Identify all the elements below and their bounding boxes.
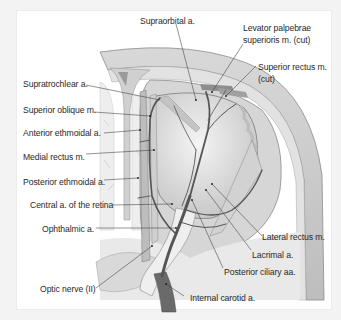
label-central-artery-retina: Central a. of the retina: [30, 199, 113, 210]
label-anterior-ethmoidal-artery: Anterior ethmoidal a.: [23, 127, 101, 138]
label-supratrochlear-artery: Supratrochlear a.: [23, 78, 88, 89]
label-levator-palpebrae-line2: superioris m. (cut): [243, 34, 310, 45]
label-ophthalmic-artery: Ophthalmic a.: [42, 223, 94, 234]
label-optic-nerve: Optic nerve (II): [40, 283, 96, 294]
label-lacrimal-artery: Lacrimal a.: [252, 249, 293, 260]
label-superior-rectus-line2: (cut): [258, 73, 275, 84]
label-posterior-ciliary-arteries: Posterior ciliary aa.: [224, 266, 296, 277]
label-medial-rectus-muscle: Medial rectus m.: [23, 151, 85, 162]
label-superior-oblique-muscle: Superior oblique m.: [23, 104, 96, 115]
label-supraorbital-artery: Supraorbital a.: [140, 15, 195, 26]
label-lateral-rectus-muscle: Lateral rectus m.: [262, 231, 325, 242]
label-levator-palpebrae-line1: Levator palpebrae: [243, 22, 311, 33]
label-superior-rectus-line1: Superior rectus m.: [258, 61, 327, 72]
label-posterior-ethmoidal-artery: Posterior ethmoidal a.: [23, 176, 105, 187]
label-internal-carotid-artery: Internal carotid a.: [190, 292, 255, 303]
